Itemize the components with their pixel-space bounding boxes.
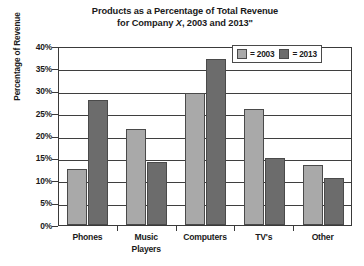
legend-label-2003: = 2003 (250, 49, 274, 59)
plot-area (58, 47, 352, 226)
x-category-label: Other (283, 232, 363, 244)
x-label-line1: Other (312, 232, 334, 242)
x-label-line1: TV's (255, 232, 272, 242)
legend-entry-2013: = 2013 (279, 49, 316, 59)
y-tick-label: 15% (12, 153, 52, 163)
x-label-line1: Phones (72, 232, 102, 242)
bar-other-2013 (324, 178, 344, 225)
bar-chart-figure: Products as a Percentage of Total Revenu… (0, 0, 364, 266)
y-tick-label: 10% (12, 176, 52, 186)
legend-label-2013: = 2013 (292, 49, 316, 59)
y-tick-label: 30% (12, 86, 52, 96)
x-tick-mark (293, 226, 294, 231)
bar-phones-2003 (67, 169, 87, 225)
x-label-line1: Computers (183, 232, 227, 242)
y-tick-label: 20% (12, 131, 52, 141)
chart-title-line2-suffix: , 2003 and 2013" (182, 18, 253, 28)
x-tick-mark (117, 226, 118, 231)
chart-title-line1: Products as a Percentage of Total Revenu… (92, 6, 278, 16)
bar-music-players-2003 (126, 129, 146, 225)
x-tick-mark (176, 226, 177, 231)
bar-phones-2013 (88, 100, 108, 225)
bar-music-players-2013 (147, 162, 167, 225)
chart-title: Products as a Percentage of Total Revenu… (60, 5, 310, 29)
y-tick-label: 5% (12, 198, 52, 208)
y-tick-mark (52, 226, 58, 227)
bar-tv-s-2003 (244, 109, 264, 225)
bar-computers-2013 (206, 59, 226, 225)
y-tick-label: 35% (12, 64, 52, 74)
x-label-line2: Players (132, 244, 161, 254)
y-tick-label: 40% (12, 42, 52, 52)
legend-swatch-2003-icon (237, 49, 247, 59)
x-label-line1: Music (135, 232, 158, 242)
bar-tv-s-2013 (265, 158, 285, 225)
bar-computers-2003 (185, 93, 205, 225)
chart-title-line2-prefix: for Company (117, 18, 176, 28)
y-tick-label: 25% (12, 109, 52, 119)
legend-swatch-2013-icon (279, 49, 289, 59)
x-tick-mark (234, 226, 235, 231)
y-tick-label: 0% (12, 221, 52, 231)
bar-other-2003 (303, 165, 323, 225)
gridline (59, 93, 351, 94)
legend-entry-2003: = 2003 (237, 49, 274, 59)
chart-legend: = 2003 = 2013 (232, 45, 322, 63)
gridline (59, 70, 351, 71)
